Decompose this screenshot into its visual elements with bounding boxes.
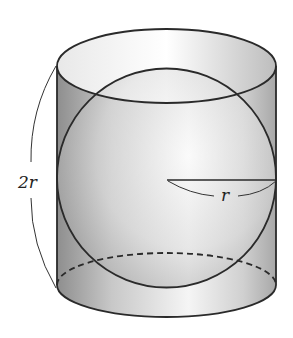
height-label: 2r (17, 172, 38, 192)
cylinder-sphere-diagram: 2r r (0, 0, 293, 338)
diagram-canvas: 2r r (0, 0, 293, 338)
sphere (57, 69, 276, 288)
radius-label: r (221, 185, 230, 205)
